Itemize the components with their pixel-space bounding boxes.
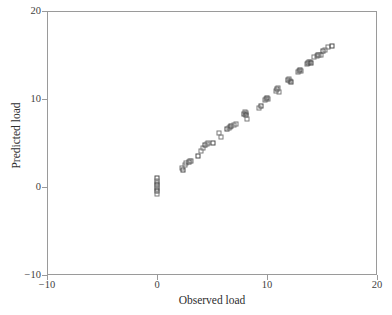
data-point [189, 158, 194, 163]
y-axis-tick-label: 0 [36, 182, 41, 193]
x-axis-title: Observed load [47, 294, 377, 307]
data-point [218, 134, 223, 139]
y-axis-tick-label: 20 [31, 6, 42, 17]
data-point [211, 141, 216, 146]
y-axis-tick [42, 99, 47, 100]
x-axis-tick-label: 20 [372, 280, 383, 291]
y-axis-tick [42, 187, 47, 188]
scatter-plot-figure: 20100−10 −1001020 Observed load Predicte… [0, 0, 392, 315]
y-axis-title: Predicted load [10, 76, 23, 196]
y-axis-tick [42, 11, 47, 12]
data-point [258, 104, 263, 109]
x-axis-tick-label: 10 [262, 280, 273, 291]
data-point [205, 140, 210, 145]
data-point [155, 192, 160, 197]
data-point [288, 80, 293, 85]
data-point [298, 69, 303, 74]
data-point [180, 167, 185, 172]
data-point [309, 60, 314, 65]
plot-area [47, 11, 377, 275]
data-point [276, 89, 281, 94]
x-axis-tick-labels: −1001020 [47, 280, 377, 294]
data-point [245, 117, 250, 122]
y-axis-tick-label: 10 [31, 94, 42, 105]
x-axis-tick-label: 0 [154, 280, 159, 291]
data-point [329, 44, 334, 49]
x-axis-tick-label: −10 [39, 280, 55, 291]
data-point [233, 121, 238, 126]
data-point [265, 97, 270, 102]
data-point [195, 154, 200, 159]
data-point [318, 53, 323, 58]
